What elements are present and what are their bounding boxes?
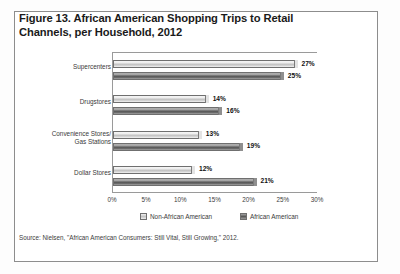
- legend-item[interactable]: Non-African American: [140, 213, 212, 220]
- bar[interactable]: [113, 131, 202, 139]
- bar-value-label: 12%: [199, 165, 212, 173]
- bar-value-label: 27%: [302, 60, 315, 68]
- bar-value-label: 13%: [206, 130, 219, 138]
- bar-end-cap: [198, 131, 202, 139]
- legend-swatch-icon: [140, 213, 147, 220]
- bar[interactable]: [113, 107, 222, 115]
- bar-value-label: 21%: [261, 177, 274, 185]
- category-label: Drugstores: [18, 98, 111, 106]
- bar-end-cap: [205, 95, 209, 103]
- bar-end-cap: [280, 72, 284, 80]
- bar-end-cap: [239, 143, 243, 151]
- x-axis-tick-label: 5%: [142, 196, 151, 203]
- bar[interactable]: [113, 95, 209, 103]
- bar-end-cap: [294, 60, 298, 68]
- legend-swatch-icon: [240, 213, 247, 220]
- bar[interactable]: [113, 166, 195, 174]
- legend-label: African American: [250, 213, 298, 220]
- category-label-line: Gas Stations: [18, 138, 111, 146]
- bar-value-label: 19%: [247, 142, 260, 150]
- plot-area: 27%25%14%16%13%19%12%21%: [112, 52, 317, 193]
- category-label-line: Drugstores: [18, 98, 111, 106]
- bar-group: 12%21%: [113, 159, 317, 194]
- source-note: Source: Nielsen, "African American Consu…: [19, 234, 239, 241]
- bar-end-cap: [253, 178, 257, 186]
- x-axis-tick-label: 25%: [277, 196, 290, 203]
- category-label: Convenience Stores/Gas Stations: [18, 130, 111, 146]
- x-axis-tick-label: 0%: [107, 196, 116, 203]
- legend-label: Non-African American: [150, 213, 212, 220]
- bar-end-cap: [191, 166, 195, 174]
- bar[interactable]: [113, 178, 257, 186]
- category-label: Supercenters: [18, 63, 111, 71]
- bar-group: 27%25%: [113, 53, 317, 88]
- bar[interactable]: [113, 60, 298, 68]
- bar-value-label: 14%: [213, 95, 226, 103]
- y-axis-category-labels: SupercentersDrugstoresConvenience Stores…: [18, 52, 111, 193]
- bar-group: 14%16%: [113, 88, 317, 123]
- legend-item[interactable]: African American: [240, 213, 298, 220]
- x-axis-tick-label: 20%: [242, 196, 255, 203]
- chart-legend: Non-African AmericanAfrican American: [0, 213, 364, 227]
- x-axis-tick-label: 30%: [311, 196, 324, 203]
- category-label: Dollar Stores: [18, 169, 111, 177]
- category-label-line: Supercenters: [18, 63, 111, 71]
- x-axis: 0%5%10%15%20%25%30%: [112, 193, 317, 207]
- bar[interactable]: [113, 72, 284, 80]
- chart-plot-wrapper: SupercentersDrugstoresConvenience Stores…: [0, 52, 364, 202]
- bar[interactable]: [113, 143, 243, 151]
- bar-end-cap: [218, 107, 222, 115]
- figure-title: Figure 13. African American Shopping Tri…: [19, 11, 339, 39]
- category-label-line: Convenience Stores/: [18, 130, 111, 138]
- category-label-line: Dollar Stores: [18, 169, 111, 177]
- bar-value-label: 16%: [226, 107, 239, 115]
- x-axis-tick-label: 10%: [174, 196, 187, 203]
- bar-group: 13%19%: [113, 124, 317, 159]
- bar-value-label: 25%: [288, 72, 301, 80]
- x-axis-tick-label: 15%: [208, 196, 221, 203]
